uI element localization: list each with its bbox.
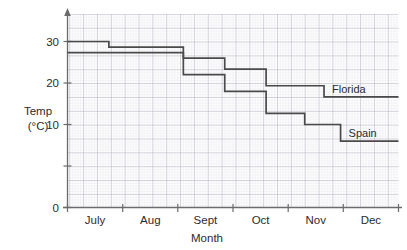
x-tick-label-aug: Aug [140,214,160,226]
x-axis-label: Month [191,232,223,244]
y-tick-label-0: 0 [53,202,59,214]
x-tick-label-dec: Dec [361,214,382,226]
x-tick-label-oct: Oct [252,214,271,226]
y-tick-label-30: 30 [46,36,59,48]
x-tick-label-sept: Sept [194,214,218,226]
y-axis-label-line2: (°C) [28,120,49,132]
series-label-florida: Florida [332,83,367,95]
y-tick-label-20: 20 [46,77,59,89]
y-axis-arrow-icon [64,8,71,16]
x-tick-label-july: July [85,214,106,226]
x-tick-label-nov: Nov [305,214,326,226]
temperature-step-chart: 0 10 20 30 Temp (°C) July Aug Sept Oct N… [0,0,407,250]
y-axis-label-line1: Temp [24,105,52,117]
chart-canvas: 0 10 20 30 Temp (°C) July Aug Sept Oct N… [0,0,407,250]
series-label-spain: Spain [349,127,377,139]
plot-grid [68,14,399,208]
